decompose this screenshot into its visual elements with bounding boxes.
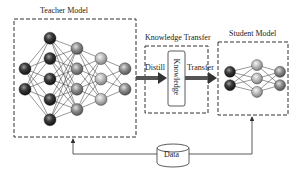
data-to-teacher-line [73,139,157,154]
neuron-node [19,83,31,95]
knowledge-distillation-diagram [0,0,302,179]
neuron-node [44,53,56,65]
teacher-network [19,32,131,126]
transfer-label: Transfer [187,63,214,72]
neuron-node [252,86,263,97]
neuron-node [95,53,107,65]
distill-label: Distill [145,63,165,72]
neuron-node [44,32,56,44]
neuron-node [71,42,83,54]
neuron-node [71,83,83,95]
neuron-node [225,66,236,77]
neuron-node [95,73,107,85]
data-to-student-line [189,117,252,154]
neuron-node [252,73,263,84]
student-network [225,60,286,98]
transfer-arrow [185,76,211,80]
neuron-node [95,93,107,105]
neuron-node [44,73,56,85]
neuron-node [71,63,83,75]
distill-arrowhead [158,72,167,84]
neuron-node [252,60,263,71]
teacher-model-title: Teacher Model [40,6,88,15]
knowledge-transfer-title: Knowledge Transfer [145,33,211,42]
data-label: Data [164,150,179,159]
neuron-node [275,80,286,91]
neuron-node [119,83,131,95]
neuron-node [19,63,31,75]
neuron-node [225,80,236,91]
neuron-node [44,93,56,105]
student-model-title: Student Model [229,29,276,38]
transfer-arrowhead [208,72,217,84]
neuron-node [119,63,131,75]
neuron-node [44,114,56,126]
neuron-node [71,104,83,116]
neuron-node [275,66,286,77]
knowledge-label: Knowledge [172,59,181,95]
